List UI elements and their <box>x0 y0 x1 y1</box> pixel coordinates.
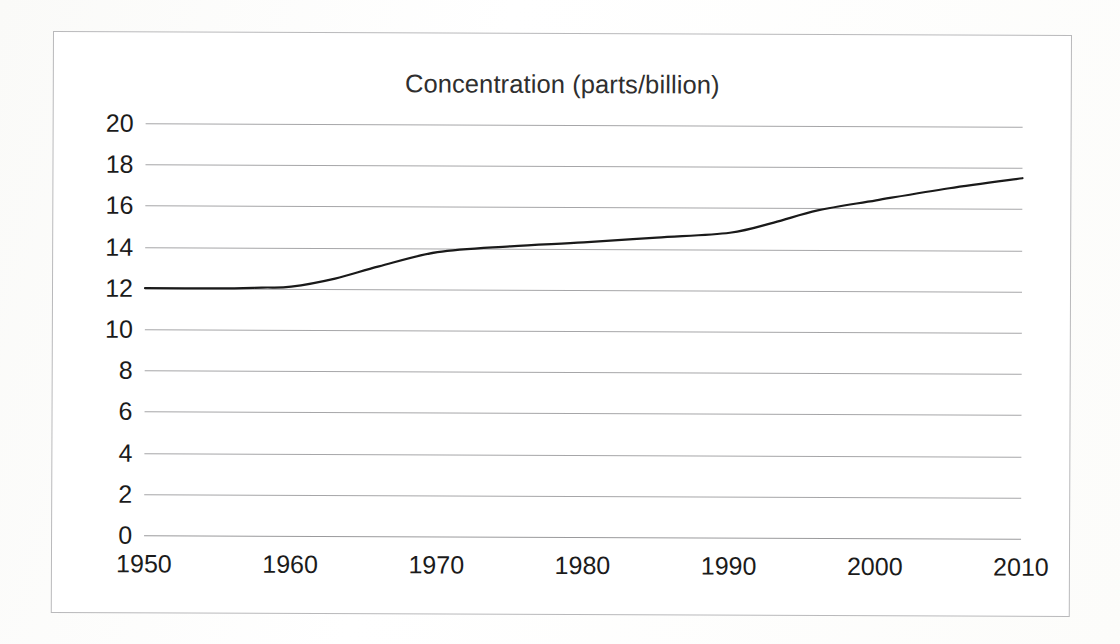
x-tick-label-2010: 2010 <box>993 553 1049 582</box>
y-tick-label-4: 4 <box>118 438 132 467</box>
y-tick-label-8: 8 <box>119 356 133 385</box>
x-tick-label-1960: 1960 <box>262 550 318 579</box>
x-tick-label-1990: 1990 <box>701 551 757 580</box>
plot-area: 20181614121086420 1950196019701980199020… <box>144 123 1023 538</box>
y-tick-label-6: 6 <box>119 397 133 426</box>
y-tick-label-2: 2 <box>118 480 132 509</box>
x-tick-label-1970: 1970 <box>408 550 464 579</box>
y-tick-label-10: 10 <box>105 315 133 344</box>
y-tick-label-18: 18 <box>106 150 134 179</box>
chart-title: Concentration (parts/billion) <box>54 68 1071 101</box>
x-tick-label-2000: 2000 <box>847 552 903 581</box>
chart-page: Concentration (parts/billion) 2018161412… <box>0 0 1120 644</box>
x-tick-label-1950: 1950 <box>116 549 172 578</box>
y-tick-label-12: 12 <box>105 273 133 302</box>
data-series-line <box>144 123 1023 538</box>
x-tick-label-1980: 1980 <box>555 551 611 580</box>
concentration-line-path <box>145 175 1022 292</box>
y-tick-label-0: 0 <box>118 521 132 550</box>
chart-frame: Concentration (parts/billion) 2018161412… <box>51 31 1072 617</box>
y-tick-label-20: 20 <box>106 109 134 138</box>
y-tick-label-16: 16 <box>105 191 133 220</box>
y-tick-label-14: 14 <box>105 232 133 261</box>
